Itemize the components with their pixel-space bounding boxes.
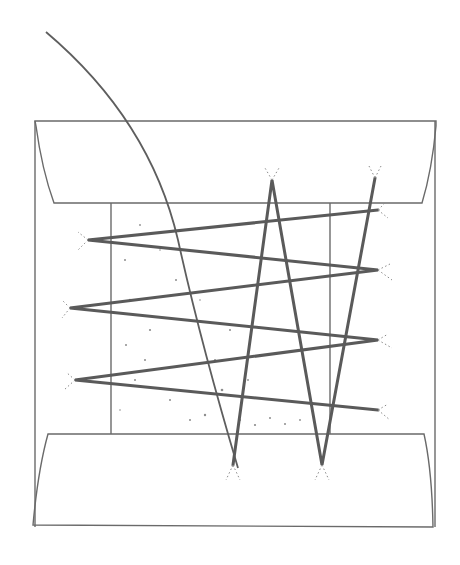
top-bar (35, 121, 436, 203)
loom-diagram (0, 0, 460, 565)
vertical-zigzag-thread (233, 178, 375, 465)
long-arc (46, 32, 238, 468)
horizontal-zigzag-thread (70, 210, 378, 410)
